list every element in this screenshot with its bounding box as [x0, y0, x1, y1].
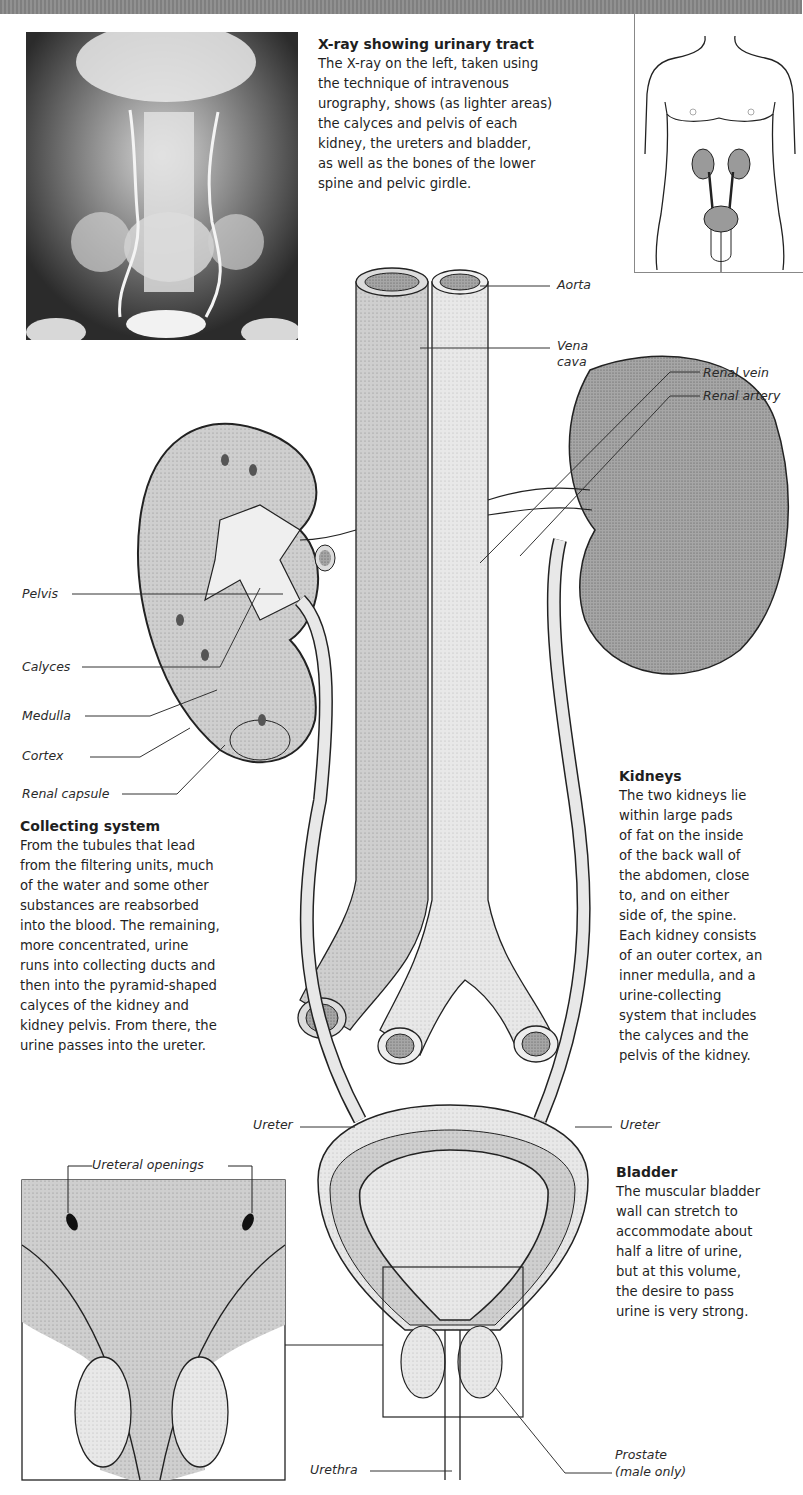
- caption-line: then into the pyramid-shaped: [20, 976, 280, 996]
- label-renal-capsule: Renal capsule: [22, 786, 109, 801]
- caption-line: From the tubules that lead: [20, 836, 280, 856]
- caption-line: to, and on either: [619, 886, 799, 906]
- bladder-title: Bladder: [616, 1162, 802, 1182]
- label-prostate-line1: Prostate: [615, 1447, 667, 1462]
- caption-line: into the blood. The remaining,: [20, 916, 280, 936]
- caption-line: side of, the spine.: [619, 906, 799, 926]
- label-ureter-right: Ureter: [620, 1117, 660, 1132]
- caption-line: The two kidneys lie: [619, 786, 799, 806]
- label-cortex: Cortex: [22, 748, 64, 763]
- label-medulla: Medulla: [22, 708, 71, 723]
- caption-line: wall can stretch to: [616, 1202, 802, 1222]
- label-pelvis: Pelvis: [22, 586, 58, 601]
- caption-line: but at this volume,: [616, 1262, 802, 1282]
- label-urethra: Urethra: [310, 1462, 358, 1477]
- caption-line: within large pads: [619, 806, 799, 826]
- label-prostate-line2: (male only): [615, 1464, 686, 1479]
- caption-line: accommodate about: [616, 1222, 802, 1242]
- label-aorta: Aorta: [557, 277, 591, 292]
- label-ureteral-openings: Ureteral openings: [92, 1157, 204, 1172]
- collecting-system-caption: Collecting system From the tubules that …: [20, 816, 280, 1056]
- left-kidney-section: [138, 424, 318, 762]
- caption-line: the abdomen, close: [619, 866, 799, 886]
- label-vena-cava-line1: Vena: [557, 338, 588, 353]
- caption-line: The muscular bladder: [616, 1182, 802, 1202]
- caption-line: urine-collecting: [619, 986, 799, 1006]
- caption-line: of an outer cortex, an: [619, 946, 799, 966]
- bladder: [318, 1105, 588, 1480]
- caption-line: more concentrated, urine: [20, 936, 280, 956]
- caption-line: Each kidney consists: [619, 926, 799, 946]
- label-calyces: Calyces: [22, 659, 70, 674]
- caption-line: system that includes: [619, 1006, 799, 1026]
- kidneys-title: Kidneys: [619, 766, 799, 786]
- caption-line: urine is very strong.: [616, 1302, 802, 1322]
- caption-line: of the water and some other: [20, 876, 280, 896]
- caption-line: calyces of the kidney and: [20, 996, 280, 1016]
- caption-line: of the back wall of: [619, 846, 799, 866]
- caption-line: pelvis of the kidney.: [619, 1046, 799, 1066]
- caption-line: runs into collecting ducts and: [20, 956, 280, 976]
- caption-line: substances are reabsorbed: [20, 896, 280, 916]
- label-vena-cava-line2: cava: [557, 354, 587, 369]
- caption-line: half a litre of urine,: [616, 1242, 802, 1262]
- label-ureter-left: Ureter: [253, 1117, 293, 1132]
- collecting-system-title: Collecting system: [20, 816, 280, 836]
- caption-line: the desire to pass: [616, 1282, 802, 1302]
- caption-line: of fat on the inside: [619, 826, 799, 846]
- caption-line: kidney pelvis. From there, the: [20, 1016, 280, 1036]
- caption-line: from the filtering units, much: [20, 856, 280, 876]
- caption-line: the calyces and the: [619, 1026, 799, 1046]
- bladder-caption: Bladder The muscular bladder wall can st…: [616, 1162, 802, 1322]
- kidneys-caption: Kidneys The two kidneys lie within large…: [619, 766, 799, 1066]
- label-renal-vein: Renal vein: [703, 365, 769, 380]
- caption-line: inner medulla, and a: [619, 966, 799, 986]
- label-renal-artery: Renal artery: [703, 388, 780, 403]
- caption-line: urine passes into the ureter.: [20, 1036, 280, 1056]
